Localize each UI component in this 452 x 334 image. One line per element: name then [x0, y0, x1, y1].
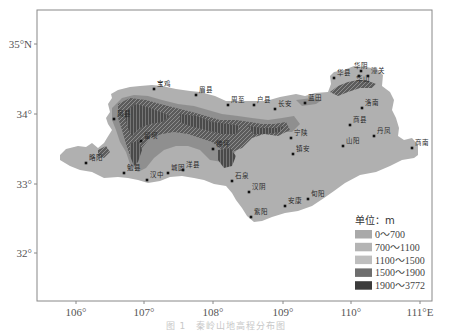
legend-swatch	[355, 243, 372, 252]
station-marker-icon	[349, 124, 352, 127]
station-marker-icon	[361, 107, 364, 110]
station-label: 旬阳	[311, 189, 325, 198]
station-marker-icon	[342, 145, 345, 148]
station-label: 周至	[231, 96, 245, 104]
legend-label: 1500～1900	[375, 267, 425, 278]
x-tick-label: 111°E	[407, 306, 434, 318]
legend-swatch	[355, 268, 372, 277]
station-marker-icon	[123, 172, 126, 175]
station-label: 洋县	[186, 160, 200, 169]
station-marker-icon	[182, 169, 185, 172]
station-marker-icon	[153, 88, 156, 91]
y-tick-label: 32°	[17, 247, 32, 259]
station-label: 紫阳	[254, 207, 268, 216]
station-label: 华阴	[354, 61, 368, 70]
x-tick-label: 106°	[66, 306, 87, 318]
x-tick-label: 107°	[134, 306, 155, 318]
station-marker-icon	[167, 172, 170, 175]
station-label: 潼关	[371, 66, 385, 75]
station-label: 勉县	[127, 163, 141, 172]
station-label: 宝鸡	[157, 79, 171, 88]
station-label: 眉县	[199, 86, 213, 94]
station-marker-icon	[227, 104, 230, 107]
station-label: 山阳	[346, 136, 360, 145]
station-label: 洛南	[365, 98, 379, 107]
legend-swatch	[355, 256, 372, 265]
station-label: 蓝田	[308, 93, 322, 102]
station-label: 镇安	[296, 144, 310, 153]
station-marker-icon	[85, 162, 88, 165]
y-tick-label: 33°	[17, 178, 32, 190]
legend-label: 700～1100	[375, 242, 420, 253]
station-label: 商县	[353, 115, 367, 124]
station-label: 丹凤	[377, 127, 391, 135]
station-marker-icon	[195, 94, 198, 97]
station-label: 汉阴	[252, 182, 266, 191]
station-label: 略阳	[89, 153, 103, 162]
station-marker-icon	[248, 191, 251, 194]
station-marker-icon	[231, 180, 234, 183]
station-marker-icon	[304, 102, 307, 105]
elevation-map: 106°107°108°109°110°111°E 35°N34°33°32° …	[0, 0, 452, 334]
station-label: 户县	[257, 95, 271, 104]
station-label: 石泉	[235, 171, 249, 180]
y-tick-label: 35°N	[9, 38, 32, 50]
station-marker-icon	[140, 140, 143, 143]
station-marker-icon	[290, 137, 293, 140]
legend-swatch	[355, 230, 372, 239]
station-label: 凤县	[117, 110, 131, 118]
station-label: 宁陕	[294, 128, 308, 137]
station-marker-icon	[274, 108, 277, 111]
station-label: 商南	[415, 138, 429, 147]
station-marker-icon	[333, 77, 336, 80]
legend-label: 0～700	[375, 229, 405, 240]
station-marker-icon	[292, 153, 295, 156]
station-marker-icon	[212, 148, 215, 151]
station-marker-icon	[411, 147, 414, 150]
station-label: 华县	[337, 68, 351, 77]
x-tick-label: 110°	[341, 306, 362, 318]
station-marker-icon	[113, 118, 116, 121]
station-marker-icon	[367, 75, 370, 78]
station-label: 长安	[278, 99, 292, 108]
station-marker-icon	[373, 135, 376, 138]
station-marker-icon	[284, 205, 287, 208]
station-marker-icon	[250, 216, 253, 219]
station-label: 安康	[288, 196, 302, 205]
x-tick-label: 108°	[203, 306, 224, 318]
station-marker-icon	[307, 198, 310, 201]
station-marker-icon	[146, 179, 149, 182]
figure-caption: 图 1 秦岭山地高程分布图	[0, 319, 452, 332]
station-marker-icon	[253, 104, 256, 107]
x-tick-label: 109°	[273, 306, 294, 318]
legend-title: 单位：m	[355, 214, 395, 226]
station-label: 佛坪	[216, 139, 230, 148]
station-label: 留坝	[144, 131, 158, 140]
y-tick-label: 34°	[17, 108, 32, 120]
legend-label: 1900～3772	[375, 280, 425, 291]
station-label: 汉中	[150, 170, 164, 179]
legend-swatch	[355, 281, 372, 290]
station-marker-icon	[360, 70, 363, 73]
legend-label: 1100～1500	[375, 255, 425, 266]
